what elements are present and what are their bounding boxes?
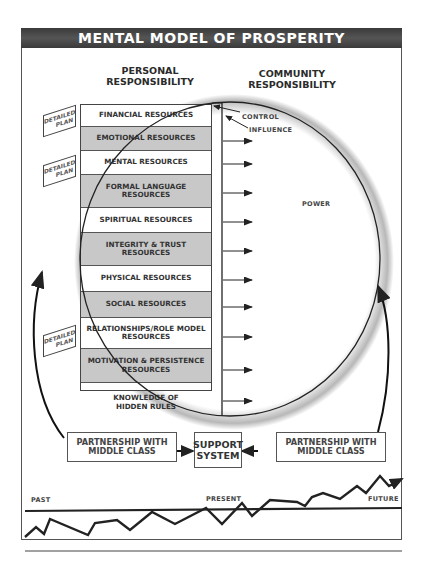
- timeline-baseline: [25, 508, 402, 511]
- box-line: MIDDLE CLASS: [76, 447, 167, 456]
- diagram-foreground: [0, 0, 426, 579]
- influence-label: INFLUENCE: [249, 126, 292, 134]
- control-pointer-arrow: [214, 106, 240, 112]
- right-feedback-arrow: [378, 286, 389, 432]
- box-line: SUPPORT: [193, 439, 243, 450]
- box-line: MIDDLE CLASS: [285, 447, 376, 456]
- control-label: CONTROL: [242, 113, 279, 121]
- timeline-past-label: PAST: [31, 496, 51, 504]
- partnership-middle-class-left: PARTNERSHIP WITH MIDDLE CLASS: [67, 432, 177, 462]
- support-system-box: SUPPORT SYSTEM: [194, 432, 242, 468]
- prosperity-trend-line: [25, 476, 397, 537]
- box-line: SYSTEM: [193, 450, 243, 461]
- timeline-future-label: FUTURE: [368, 495, 399, 503]
- power-arrows: [223, 141, 252, 401]
- partnership-middle-class-right: PARTNERSHIP WITH MIDDLE CLASS: [276, 432, 386, 462]
- circle-of-influence: [80, 102, 380, 416]
- power-label: POWER: [302, 200, 330, 208]
- timeline-present-label: PRESENT: [206, 495, 241, 503]
- left-feedback-arrow: [34, 272, 64, 438]
